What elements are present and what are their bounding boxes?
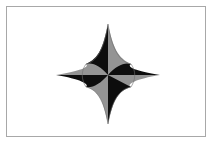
four-pointed-star <box>0 0 214 145</box>
image-canvas <box>0 0 214 145</box>
star-graphic <box>0 0 214 145</box>
